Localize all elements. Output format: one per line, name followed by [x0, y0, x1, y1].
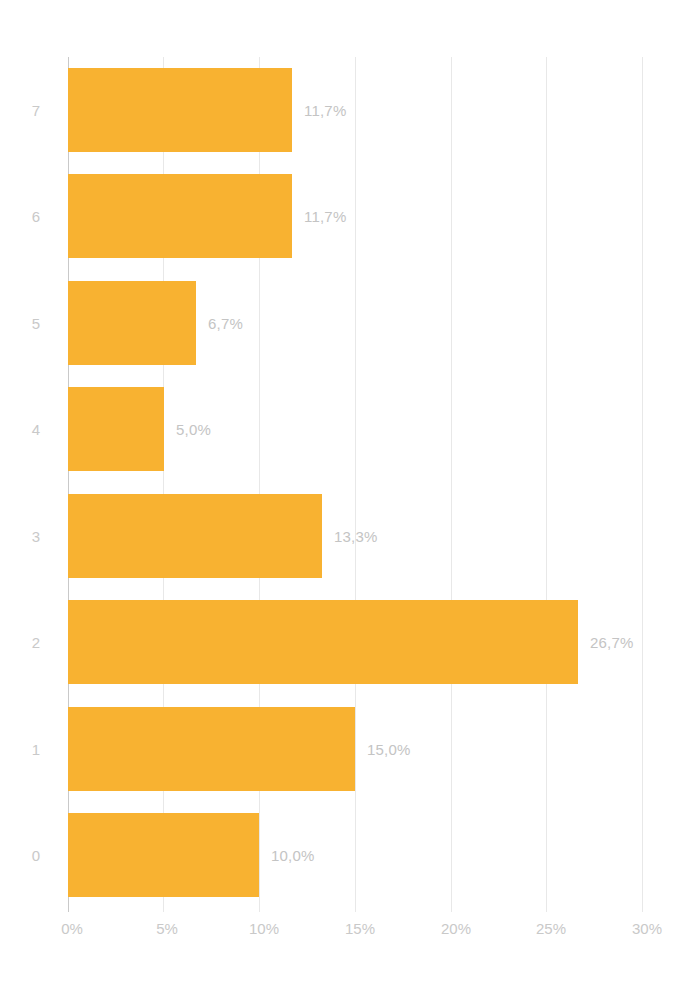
bar-value-label: 6,7% [208, 315, 243, 332]
y-tick-label: 2 [32, 634, 40, 651]
bar-value-label: 26,7% [590, 634, 634, 651]
x-tick-label: 10% [249, 920, 279, 937]
y-axis-labels: 7 6 5 4 3 2 1 0 [0, 57, 60, 912]
bar-1[interactable] [68, 707, 355, 791]
bar-value-label: 11,7% [304, 102, 346, 119]
bar-chart: 7 6 5 4 3 2 1 0 11,7% 11,7% 6,7% 5,0% 13… [0, 0, 686, 984]
y-tick-label: 0 [32, 847, 40, 864]
bar-2[interactable] [68, 600, 578, 684]
bar-7[interactable] [68, 68, 292, 152]
bar-value-label: 5,0% [176, 421, 211, 438]
bar-value-label: 11,7% [304, 208, 346, 225]
x-tick-label: 15% [345, 920, 375, 937]
x-tick-label: 0% [61, 920, 83, 937]
y-tick-label: 6 [32, 208, 40, 225]
x-tick-label: 5% [156, 920, 178, 937]
bar-4[interactable] [68, 387, 164, 471]
bar-5[interactable] [68, 281, 196, 365]
bar-3[interactable] [68, 494, 322, 578]
y-tick-label: 7 [32, 102, 40, 119]
bar-0[interactable] [68, 813, 259, 897]
x-tick-label: 20% [441, 920, 471, 937]
bar-value-label: 13,3% [334, 528, 378, 545]
y-tick-label: 5 [32, 315, 40, 332]
x-tick-label: 25% [536, 920, 566, 937]
y-tick-label: 4 [32, 421, 40, 438]
bars-layer: 11,7% 11,7% 6,7% 5,0% 13,3% 26,7% 15,0% [68, 57, 686, 912]
bar-value-label: 15,0% [367, 741, 411, 758]
bar-value-label: 10,0% [271, 847, 315, 864]
y-tick-label: 1 [32, 741, 40, 758]
bar-6[interactable] [68, 174, 292, 258]
x-axis-labels: 0% 5% 10% 15% 20% 25% 30% [0, 920, 686, 960]
y-tick-label: 3 [32, 528, 40, 545]
x-tick-label: 30% [632, 920, 662, 937]
